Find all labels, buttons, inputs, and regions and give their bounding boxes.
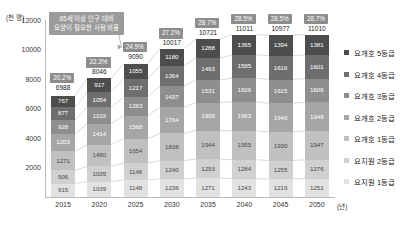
bar-segment[interactable]: 1493 (196, 58, 220, 80)
bar-segment[interactable]: 1284 (232, 160, 256, 179)
bar-segment[interactable]: 1039 (87, 182, 111, 197)
bar-segment[interactable]: 1263 (124, 97, 148, 116)
bar-segment[interactable]: 1948 (305, 102, 329, 131)
bar-segment[interactable]: 1276 (305, 160, 329, 179)
segment-connector (293, 160, 305, 161)
bar-segment[interactable]: 1414 (87, 124, 111, 145)
legend-item-2[interactable]: 요개호 3등급 (344, 85, 395, 107)
y-axis-tick-label: 8000 (6, 76, 41, 83)
bar-segment[interactable]: 1531 (196, 80, 220, 103)
segment-connector (111, 180, 123, 182)
bar-segment[interactable]: 767 (51, 96, 75, 107)
bar-segment[interactable]: 1606 (232, 78, 256, 102)
segment-connector (75, 124, 87, 134)
bar-2050[interactable]: 1251127619471948160616011381 (305, 35, 329, 197)
legend-item-label: 요개호 4등급 (354, 69, 395, 80)
y-axis-tick-label: 12000 (6, 17, 41, 24)
bar-segment[interactable]: 1219 (269, 179, 293, 197)
bar-segment[interactable]: 1394 (269, 35, 293, 56)
bar-segment[interactable]: 1568 (124, 116, 148, 139)
bar-segment[interactable]: 1103 (87, 107, 111, 123)
bar-2040[interactable]: 1243128419551963160615851365 (232, 35, 256, 197)
bar-2015[interactable]: 91590612711203928877767 (51, 96, 75, 197)
bar-total-label: 10977 (261, 26, 301, 33)
segment-connector (75, 166, 87, 170)
bar-total-label: 9090 (116, 54, 156, 61)
bar-segment[interactable]: 1838 (160, 133, 184, 160)
segment-connector (184, 131, 196, 134)
bar-segment[interactable]: 1255 (269, 161, 293, 180)
bar-segment[interactable]: 1585 (232, 55, 256, 78)
segment-connector (148, 179, 160, 180)
bar-segment[interactable]: 1293 (196, 159, 220, 178)
bar-segment[interactable]: 1035 (87, 166, 111, 181)
legend-item-6[interactable]: 요지원 1등급 (344, 171, 395, 193)
segment-connector (184, 178, 196, 179)
bar-segment[interactable]: 917 (87, 78, 111, 92)
segment-connector (220, 102, 232, 103)
legend-item-4[interactable]: 요개호 1등급 (344, 128, 395, 150)
bar-segment[interactable]: 1900 (196, 103, 220, 131)
bar-segment[interactable]: 1654 (124, 139, 148, 163)
bar-segment[interactable]: 1930 (269, 132, 293, 160)
bar-segment[interactable]: 1243 (232, 179, 256, 197)
bar-segment[interactable]: 1949 (269, 103, 293, 132)
bar-segment[interactable]: 928 (51, 120, 75, 134)
segment-connector (293, 131, 305, 132)
bar-2030[interactable]: 1236124018381764143713641180 (160, 49, 184, 197)
segment-connector (148, 107, 160, 115)
bar-segment[interactable]: 1364 (160, 66, 184, 86)
bar-segment[interactable]: 1251 (305, 179, 329, 197)
bar-segment[interactable]: 1055 (124, 64, 148, 80)
bar-segment[interactable]: 1616 (269, 56, 293, 80)
bar-segment[interactable]: 1217 (124, 79, 148, 97)
bar-segment[interactable]: 1271 (196, 178, 220, 197)
bar-segment[interactable]: 1054 (87, 92, 111, 108)
bar-segment[interactable]: 1288 (196, 39, 220, 58)
bar-segment[interactable]: 1148 (124, 180, 148, 197)
bar-segment[interactable]: 877 (51, 107, 75, 120)
segment-connector (220, 159, 232, 160)
x-axis-line (45, 197, 335, 198)
bar-segment[interactable]: 1615 (269, 80, 293, 104)
bar-segment[interactable]: 1437 (160, 86, 184, 107)
percent-label: 28.7% (195, 18, 219, 28)
percent-label: 28.5% (231, 14, 255, 24)
bar-segment[interactable]: 1271 (51, 151, 75, 170)
x-axis-unit-label: (년) (337, 201, 347, 211)
bar-segment[interactable]: 1240 (160, 161, 184, 179)
annotation-callout: 65세 이상 인구 대비 요양이 필요한 사람 비율 (49, 12, 124, 35)
bar-segment[interactable]: 1203 (51, 134, 75, 152)
legend-item-0[interactable]: 요개호 5등급 (344, 42, 395, 64)
bar-segment[interactable]: 1236 (160, 179, 184, 197)
bar-segment[interactable]: 1606 (305, 79, 329, 103)
bar-total-label: 10017 (152, 40, 192, 47)
legend-item-5[interactable]: 요지원 2등급 (344, 150, 395, 172)
bar-2035[interactable]: 1271129319441900153114931288 (196, 39, 220, 197)
bar-2025[interactable]: 1148114616541568126312171055 (124, 64, 148, 197)
bar-2045[interactable]: 1219125519301949161516161394 (269, 35, 293, 197)
bar-2020[interactable]: 103910351480141411031054917 (87, 78, 111, 197)
bar-segment[interactable]: 906 (51, 170, 75, 183)
bar-segment[interactable]: 915 (51, 184, 75, 197)
bar-segment[interactable]: 1480 (87, 145, 111, 167)
x-axis-tick-label: 2030 (152, 201, 192, 208)
bar-total-label: 11010 (297, 26, 337, 33)
bar-segment[interactable]: 1947 (305, 131, 329, 160)
legend-item-3[interactable]: 요개호 2등급 (344, 107, 395, 129)
bar-segment[interactable]: 1955 (232, 131, 256, 160)
bar-segment[interactable]: 1365 (232, 35, 256, 55)
percent-label: 28.5% (268, 14, 292, 24)
bar-segment[interactable]: 1381 (305, 35, 329, 55)
segment-connector (148, 160, 160, 163)
bar-segment[interactable]: 1944 (196, 131, 220, 160)
bar-segment[interactable]: 1146 (124, 163, 148, 180)
bar-segment[interactable]: 1180 (160, 49, 184, 66)
bar-segment[interactable]: 1601 (305, 55, 329, 79)
bar-segment[interactable]: 1764 (160, 107, 184, 133)
segment-connector (256, 131, 268, 132)
bar-segment[interactable]: 1963 (232, 102, 256, 131)
legend-swatch-icon (344, 115, 349, 120)
segment-connector (220, 78, 232, 80)
legend-item-1[interactable]: 요개호 4등급 (344, 64, 395, 86)
